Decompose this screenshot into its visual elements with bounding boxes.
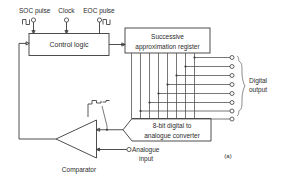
digital-output-terminal-bit-0[interactable]	[230, 117, 234, 121]
digital-output-brace	[237, 56, 245, 116]
digital-output-branches	[132, 58, 231, 120]
digital-output-terminal-bit-6[interactable]	[230, 65, 234, 69]
digital-output-label-line2: output	[249, 86, 267, 94]
eoc-pulse-waveform-icon	[103, 20, 110, 25]
sar-label-line2: approximation register	[135, 43, 200, 51]
sar-to-dac-bus	[132, 53, 195, 119]
analogue-input-label-line1: Analogue	[132, 146, 160, 154]
comparator-feedback-wire	[19, 43, 56, 139]
adc-block-diagram: SOC pulse Clock EOC pulse Control logic …	[0, 0, 281, 185]
digital-output-terminal-bit-5[interactable]	[230, 74, 234, 78]
sar-label-line1: Successive	[151, 33, 184, 40]
clock-circle-terminal[interactable]	[64, 18, 68, 22]
dac-label-line2: analogue converter	[144, 132, 200, 140]
staircase-leader-junction	[106, 129, 108, 131]
digital-output-label-line1: Digital	[249, 77, 268, 85]
soc-pulse-label: SOC pulse	[19, 7, 51, 15]
analogue-input-label-line2: input	[139, 155, 153, 163]
dac-label-line1: 8-bit digital to	[153, 122, 192, 130]
analogue-input-circle-terminal[interactable]	[127, 147, 131, 151]
digital-output-terminal-bit-2[interactable]	[230, 101, 234, 105]
figure-caption: (a)	[224, 153, 231, 159]
soc-circle-terminal[interactable]	[31, 18, 35, 22]
comparator-label: Comparator	[62, 166, 97, 174]
digital-output-terminal-bit-7[interactable]	[230, 56, 234, 60]
eoc-circle-terminal[interactable]	[97, 18, 101, 22]
soc-pulse-waveform-icon	[23, 20, 30, 25]
digital-output-terminal-bit-1[interactable]	[230, 109, 234, 113]
digital-output-terminals[interactable]	[230, 56, 234, 122]
eoc-pulse-label: EOC pulse	[83, 7, 115, 15]
clock-label: Clock	[58, 7, 75, 14]
comparator-block	[56, 120, 97, 158]
digital-output-terminal-bit-4[interactable]	[230, 83, 234, 87]
control-logic-label: Control logic	[50, 41, 89, 49]
digital-output-terminal-bit-3[interactable]	[230, 92, 234, 96]
